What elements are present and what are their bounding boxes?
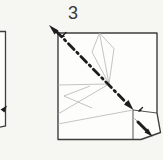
paper-sheet <box>49 25 161 140</box>
previous-step-paper <box>0 32 6 128</box>
previous-step-square-fragment <box>0 32 7 128</box>
origami-diagram: 3 <box>0 0 163 160</box>
step-number-label: 3 <box>68 4 78 22</box>
diagram-canvas <box>0 0 163 160</box>
